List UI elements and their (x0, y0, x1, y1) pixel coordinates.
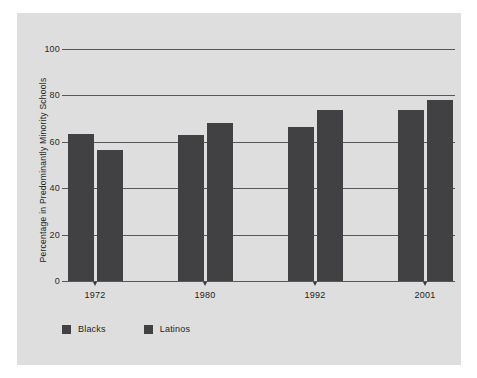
y-tick-label: 80 (50, 90, 60, 100)
x-tick-mark (423, 282, 427, 286)
x-tick-label: 1980 (194, 290, 215, 300)
gridline (66, 188, 455, 189)
bar-blacks-1992 (288, 127, 314, 281)
bar-group (68, 49, 123, 281)
legend-label: Latinos (160, 324, 190, 334)
x-tick-mark (313, 282, 317, 286)
bar-group (398, 49, 453, 281)
x-tick-label: 1972 (84, 290, 105, 300)
y-tick-label: 40 (50, 183, 60, 193)
legend-swatch-icon (62, 325, 71, 334)
y-tick-label: 20 (50, 230, 60, 240)
bar-blacks-1980 (178, 135, 204, 281)
gridline (66, 142, 455, 143)
y-tick-label: 100 (44, 44, 60, 54)
y-tick-label: 60 (50, 137, 60, 147)
gridline (66, 235, 455, 236)
bar-group (178, 49, 233, 281)
gridline (66, 49, 455, 50)
x-axis-tick-labels: 1972198019922001 (66, 290, 455, 304)
x-tick-label: 2001 (414, 290, 435, 300)
bar-latinos-1980 (207, 123, 233, 281)
legend-item-latinos: Latinos (144, 324, 190, 334)
y-tick-label: 0 (55, 276, 60, 286)
bar-blacks-1972 (68, 134, 94, 281)
plot-area (66, 49, 455, 281)
x-tick-mark (93, 282, 97, 286)
x-tick-mark (203, 282, 207, 286)
gridline (66, 95, 455, 96)
legend-swatch-icon (144, 325, 153, 334)
bar-latinos-1992 (317, 110, 343, 281)
x-tick-label: 1992 (304, 290, 325, 300)
chart-figure: Percentage in Predominantly Minority Sch… (0, 0, 477, 378)
bar-latinos-1972 (97, 150, 123, 281)
bar-latinos-2001 (427, 100, 453, 281)
legend-label: Blacks (78, 324, 106, 334)
bar-group (288, 49, 343, 281)
bar-blacks-2001 (398, 110, 424, 281)
legend-item-blacks: Blacks (62, 324, 106, 334)
chart-legend: BlacksLatinos (62, 322, 228, 336)
y-axis-ticks: 020406080100 (40, 49, 60, 281)
x-axis-tick-marks (66, 282, 455, 290)
